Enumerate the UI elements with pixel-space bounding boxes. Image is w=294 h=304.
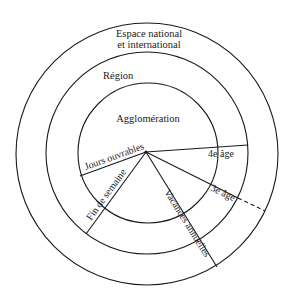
label-region: Région: [103, 70, 134, 81]
label-national: Espace national: [116, 28, 182, 39]
label-international: et international: [117, 39, 180, 50]
label-fourth-age: 4e âge: [208, 148, 234, 159]
label-third-age: 3e âge: [209, 182, 238, 203]
leisure-space-diagram: Espace national et international Région …: [0, 0, 294, 304]
line-third-age-dashed: [238, 198, 265, 211]
label-agglomeration: Agglomération: [116, 113, 180, 124]
center-point: [144, 150, 147, 153]
label-holidays: Vacances annuelles: [162, 187, 212, 259]
label-weekend: Fin de semaine: [84, 166, 129, 222]
